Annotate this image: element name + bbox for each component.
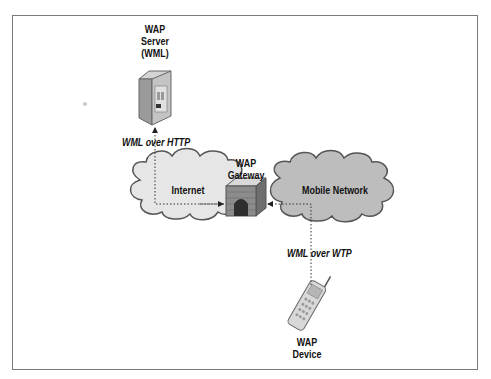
server-label: WAP Server (WML)	[134, 23, 177, 59]
mobile-phone-icon	[287, 269, 334, 332]
gateway-label: WAP Gateway	[225, 157, 268, 181]
mobile-network-label: Mobile Network	[297, 184, 374, 196]
speck	[83, 102, 87, 106]
gateway-label-line-2: Gateway	[225, 169, 268, 181]
device-label-line-2: Device	[286, 348, 329, 360]
device-label-line-1: WAP	[286, 336, 329, 348]
gateway-label-line-1: WAP	[225, 157, 268, 169]
server-tower-icon	[139, 71, 171, 125]
brick-gateway-icon	[226, 178, 266, 216]
internet-label: Internet	[163, 184, 214, 196]
server-label-line-2: Server	[134, 35, 177, 47]
diagram-canvas	[0, 0, 491, 379]
edge-label-wtp: WML over WTP	[287, 247, 352, 259]
edge-label-http: WML over HTTP	[122, 136, 190, 148]
server-label-line-1: WAP	[134, 23, 177, 35]
server-label-line-3: (WML)	[134, 47, 177, 59]
device-label: WAP Device	[286, 336, 329, 360]
